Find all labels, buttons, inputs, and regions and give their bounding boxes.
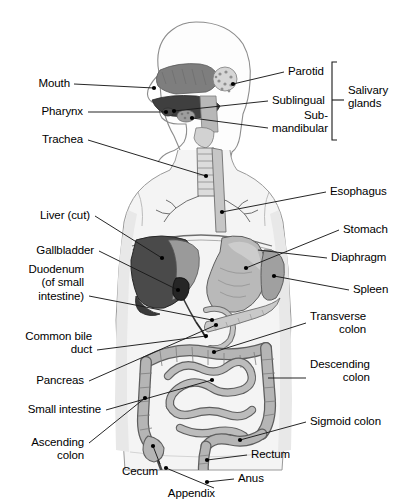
label-pancreas: Pancreas: [36, 374, 84, 388]
label-sublingual: Sublingual: [272, 94, 325, 108]
salivary-glands-bracket: [332, 62, 344, 140]
label-mouth: Mouth: [39, 77, 70, 91]
label-esophagus: Esophagus: [330, 185, 387, 199]
label-cecum: Cecum: [122, 465, 158, 479]
label-salivary-glands: Salivary glands: [348, 84, 388, 111]
label-submandibular: Sub- mandibular: [272, 109, 328, 136]
label-duodenum: Duodenum (of small intestine): [29, 263, 84, 304]
label-pharynx: Pharynx: [42, 105, 84, 119]
label-transverse-colon: Transverse colon: [310, 310, 366, 337]
label-trachea: Trachea: [42, 133, 83, 147]
label-rectum: Rectum: [251, 448, 290, 462]
label-stomach: Stomach: [343, 223, 388, 237]
label-gallbladder: Gallbladder: [36, 244, 94, 258]
label-common-bile-duct: Common bile duct: [25, 330, 92, 357]
label-sigmoid-colon: Sigmoid colon: [310, 415, 381, 429]
label-descending-colon: Descending colon: [310, 358, 370, 385]
label-anus: Anus: [238, 472, 264, 486]
label-appendix: Appendix: [168, 487, 215, 501]
label-liver-cut: Liver (cut): [40, 209, 90, 223]
label-ascending-colon: Ascending colon: [31, 436, 84, 463]
label-diaphragm: Diaphragm: [331, 251, 386, 265]
label-small-intestine: Small intestine: [28, 403, 101, 417]
label-spleen: Spleen: [353, 283, 388, 297]
label-parotid: Parotid: [288, 65, 324, 79]
